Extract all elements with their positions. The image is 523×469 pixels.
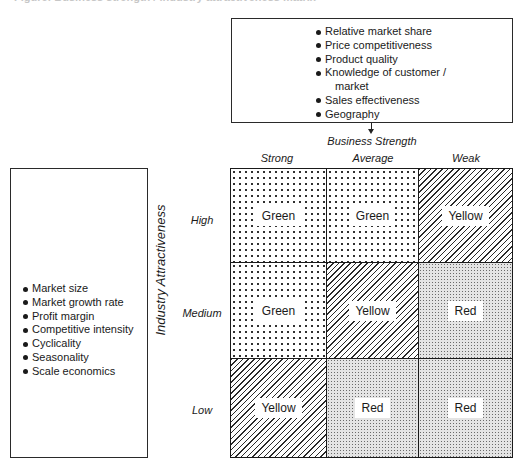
row-label-medium: Medium (180, 307, 224, 319)
factor-item: Scale economics (23, 365, 134, 379)
cell-label: Green (350, 206, 395, 226)
cell-label: Yellow (442, 206, 488, 226)
cell-label: Green (256, 301, 301, 321)
cell-low-weak: Red (419, 359, 512, 457)
factor-item: Product quality (316, 53, 446, 67)
industry-attractiveness-factors-list: Market size Market growth rate Profit ma… (23, 282, 134, 379)
industry-attractiveness-factors-box: Market size Market growth rate Profit ma… (10, 168, 148, 458)
y-axis-title: Industry Attractiveness (153, 204, 168, 335)
factor-item: Competitive intensity (23, 323, 134, 337)
factor-item: Relative market share (316, 25, 446, 39)
cell-high-average: Green (327, 169, 419, 263)
figure-caption: Figure: Business strength / industry att… (14, 0, 316, 3)
x-axis-title: Business Strength (322, 135, 422, 147)
cell-label: Red (355, 398, 389, 418)
factor-item-text: Knowledge of customer / (325, 66, 446, 78)
factor-item: Seasonality (23, 351, 134, 365)
cell-label: Yellow (255, 398, 301, 418)
cell-label: Yellow (349, 301, 395, 321)
factor-item-continuation: market (325, 80, 446, 94)
factor-item: Price competitiveness (316, 39, 446, 53)
business-strength-factors-box: Relative market share Price competitiven… (231, 18, 513, 123)
cell-medium-weak: Red (419, 263, 512, 359)
business-strength-factors-list: Relative market share Price competitiven… (316, 25, 446, 122)
cell-high-weak: Yellow (419, 169, 512, 263)
factor-item: Cyclicality (23, 337, 134, 351)
factor-item: Geography (316, 108, 446, 122)
column-label-average: Average (326, 152, 420, 164)
cell-label: Green (256, 206, 301, 226)
cell-label: Red (448, 398, 482, 418)
arrowhead-icon (368, 129, 374, 134)
cell-high-strong: Green (231, 169, 327, 263)
factor-item: Sales effectiveness (316, 94, 446, 108)
factor-item: Knowledge of customer /market (316, 66, 446, 94)
cell-medium-average: Yellow (327, 263, 419, 359)
factor-item: Profit margin (23, 310, 134, 324)
cell-low-strong: Yellow (231, 359, 327, 457)
cell-low-average: Red (327, 359, 419, 457)
column-label-strong: Strong (230, 152, 324, 164)
factor-item: Market size (23, 282, 134, 296)
row-label-high: High (180, 214, 224, 226)
row-label-low: Low (180, 404, 224, 416)
strategy-matrix: Green Green Yellow Green Yellow Red Yell… (230, 168, 513, 458)
column-label-weak: Weak (419, 152, 513, 164)
factor-item: Market growth rate (23, 296, 134, 310)
cell-medium-strong: Green (231, 263, 327, 359)
cell-label: Red (448, 301, 482, 321)
